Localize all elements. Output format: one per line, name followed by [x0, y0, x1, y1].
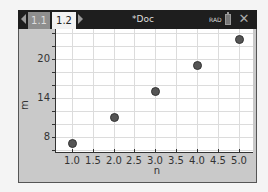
x-tick — [114, 149, 115, 153]
grid-line — [197, 29, 198, 152]
y-tick — [52, 111, 56, 112]
document-title: *Doc — [118, 10, 168, 29]
data-point[interactable] — [193, 61, 202, 70]
close-icon[interactable]: ✕ — [237, 11, 251, 27]
x-tick-label: 2.0 — [104, 156, 124, 166]
y-tick-label: 14 — [30, 93, 50, 103]
grid-line — [55, 85, 253, 86]
y-tick — [52, 46, 56, 47]
tab-scroll-right-icon[interactable] — [78, 14, 83, 24]
grid-line — [239, 29, 240, 152]
y-tick-label: 8 — [30, 132, 50, 142]
grid-line — [55, 137, 253, 138]
grid-line — [55, 72, 253, 73]
x-tick — [218, 149, 219, 153]
title-bar: 1.1 1.2 *Doc RAD ✕ — [18, 10, 257, 29]
grid-line — [55, 59, 253, 60]
y-axis-title[interactable]: m — [20, 100, 30, 110]
grid-line — [55, 111, 253, 112]
y-tick-label: 20 — [30, 54, 50, 64]
battery-icon — [225, 14, 231, 25]
tab-1-1[interactable]: 1.1 — [28, 12, 50, 29]
tab-1-2[interactable]: 1.2 — [52, 12, 76, 29]
grid-line — [55, 150, 253, 151]
y-tick — [52, 150, 56, 151]
grid-line — [176, 29, 177, 152]
grid-line — [218, 29, 219, 152]
angle-mode-indicator: RAD — [209, 10, 222, 29]
grid-line — [55, 124, 253, 125]
data-point[interactable] — [235, 35, 244, 44]
tab-scroll-left-icon[interactable] — [21, 14, 26, 24]
x-axis-title[interactable]: n — [147, 166, 167, 176]
y-tick — [52, 72, 56, 73]
x-tick-label: 4.5 — [208, 156, 228, 166]
data-point[interactable] — [110, 113, 119, 122]
grid-line — [72, 29, 73, 152]
x-tick — [72, 149, 73, 153]
grid-line — [55, 46, 253, 47]
data-point[interactable] — [151, 87, 160, 96]
x-tick — [239, 149, 240, 153]
y-tick — [52, 124, 56, 125]
grid-line — [55, 33, 253, 34]
x-tick — [197, 149, 198, 153]
grid-line — [55, 98, 253, 99]
y-tick — [52, 59, 56, 60]
y-axis — [55, 29, 56, 153]
x-tick-label: 5.0 — [229, 156, 249, 166]
x-tick-label: 4.0 — [187, 156, 207, 166]
y-tick — [52, 98, 56, 99]
y-tick — [52, 85, 56, 86]
x-tick — [176, 149, 177, 153]
x-tick-label: 3.5 — [166, 156, 186, 166]
grid-line — [93, 29, 94, 152]
y-tick — [52, 137, 56, 138]
x-axis — [55, 152, 253, 153]
x-tick-label: 2.5 — [124, 156, 144, 166]
x-tick — [155, 149, 156, 153]
y-tick — [52, 33, 56, 34]
x-tick-label: 1.0 — [62, 156, 82, 166]
grid-line — [114, 29, 115, 152]
x-tick-label: 1.5 — [83, 156, 103, 166]
x-tick — [93, 149, 94, 153]
data-point[interactable] — [68, 139, 77, 148]
grid-line — [134, 29, 135, 152]
x-tick — [134, 149, 135, 153]
